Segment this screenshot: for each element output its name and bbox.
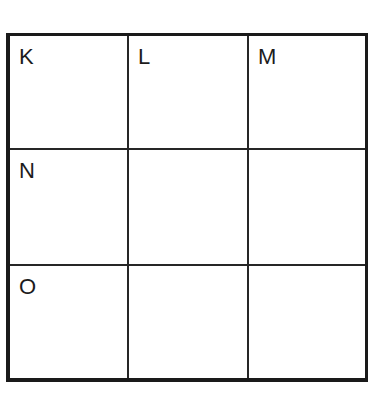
cell-r1-c1: K [10, 36, 129, 150]
cell-r2-c3 [249, 150, 365, 266]
cell-label: O [19, 276, 36, 298]
cell-r1-c2: L [129, 36, 249, 150]
letter-grid: K L M N O [6, 33, 368, 382]
cell-label: M [258, 46, 276, 68]
cell-label: N [19, 160, 35, 182]
cell-r3-c3 [249, 266, 365, 378]
cell-label: K [19, 46, 34, 68]
cell-r3-c1: O [10, 266, 129, 378]
cell-r1-c3: M [249, 36, 365, 150]
cell-r2-c1: N [10, 150, 129, 266]
cell-label: L [138, 46, 150, 68]
cell-r2-c2 [129, 150, 249, 266]
cell-r3-c2 [129, 266, 249, 378]
